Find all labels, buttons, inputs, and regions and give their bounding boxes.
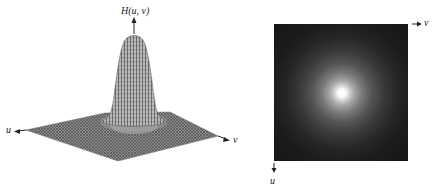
image-v-axis-label: v bbox=[424, 18, 428, 28]
image-u-axis-label: u bbox=[270, 176, 275, 186]
function-label: H(u, v) bbox=[121, 6, 149, 16]
gaussian-peak bbox=[100, 36, 168, 127]
image-plot-panel: v u bbox=[240, 0, 434, 193]
u-axis-label: u bbox=[6, 125, 11, 135]
image-axes bbox=[240, 0, 434, 193]
surface-plot-panel: H(u, v) u v bbox=[0, 0, 240, 193]
v-axis-label: v bbox=[233, 135, 237, 145]
gaussian-surface-mesh bbox=[0, 0, 240, 193]
